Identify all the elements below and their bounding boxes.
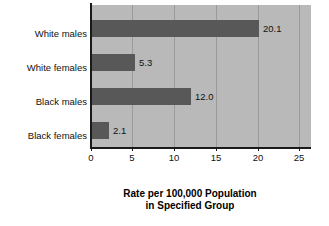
x-axis-title-line-2: in Specified Group — [60, 200, 320, 212]
y-axis-line — [90, 3, 92, 148]
xtick-label-0: 0 — [88, 152, 93, 163]
bar-chart-figure: White males White females Black males Bl… — [0, 0, 329, 226]
x-axis-title-line-1: Rate per 100,000 Population — [60, 188, 320, 200]
bar-value-black-males: 12.0 — [195, 88, 214, 105]
category-axis-labels: White males White females Black males Bl… — [0, 5, 87, 147]
xtick-label-25: 25 — [294, 152, 305, 163]
tickmark-0 — [91, 147, 92, 151]
tickmark-20 — [258, 147, 259, 151]
tickmark-5 — [132, 147, 133, 151]
category-label-white-males: White males — [0, 28, 87, 39]
x-axis-tick-labels: 0 5 10 15 20 25 — [91, 152, 311, 166]
bar-white-males — [91, 20, 259, 37]
category-label-black-males: Black males — [0, 96, 87, 107]
tickmark-10 — [174, 147, 175, 151]
bar-value-white-males: 20.1 — [263, 20, 282, 37]
category-label-white-females: White females — [0, 62, 87, 73]
bar-value-black-females: 2.1 — [113, 122, 126, 139]
xtick-label-10: 10 — [169, 152, 180, 163]
tickmark-15 — [216, 147, 217, 151]
bar-black-females — [91, 122, 109, 139]
x-axis-title: Rate per 100,000 Population in Specified… — [60, 188, 320, 212]
category-label-black-females: Black females — [0, 130, 87, 141]
tickmark-25 — [299, 147, 300, 151]
xtick-label-15: 15 — [211, 152, 222, 163]
xtick-label-5: 5 — [129, 152, 134, 163]
bar-white-females — [91, 54, 135, 71]
bar-black-males — [91, 88, 191, 105]
gridline-25 — [299, 5, 300, 147]
bar-value-white-females: 5.3 — [139, 54, 152, 71]
xtick-label-20: 20 — [253, 152, 264, 163]
plot-area: 20.1 5.3 12.0 2.1 — [91, 5, 311, 147]
